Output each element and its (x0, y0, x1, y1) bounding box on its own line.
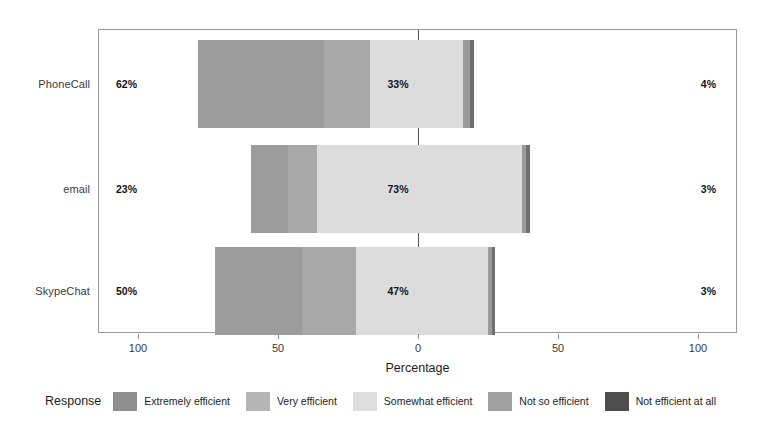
legend-item-label: Not efficient at all (636, 395, 716, 407)
x-tick-label: 50 (552, 342, 564, 354)
legend-item[interactable]: Not so efficient (488, 392, 588, 411)
x-tick (558, 334, 559, 339)
legend-item[interactable]: Somewhat efficient (353, 392, 473, 411)
x-tick-label: 0 (415, 342, 421, 354)
right-percent-label: 3% (680, 285, 716, 297)
bar-segment-very-efficient (302, 247, 357, 335)
legend-item[interactable]: Very efficient (246, 392, 337, 411)
left-percent-label: 62% (116, 78, 137, 90)
right-percent-label: 3% (680, 183, 716, 195)
center-percent-label: 33% (387, 78, 408, 90)
legend-title: Response (45, 394, 101, 408)
zero-reference-line-0 (418, 30, 419, 40)
bar-row (98, 40, 737, 128)
x-tick (418, 334, 419, 339)
center-percent-label: 73% (387, 183, 408, 195)
chart-legend: Response Extremely efficientVery efficie… (0, 388, 777, 414)
bar-segment-somewhat-efficient (356, 247, 488, 335)
x-tick (138, 334, 139, 339)
bar-segment-somewhat-efficient (317, 145, 521, 233)
left-percent-label: 23% (116, 183, 137, 195)
bar-segment-extremely-efficient (215, 247, 302, 335)
bar-segment-extremely-efficient (251, 145, 287, 233)
legend-item-label: Not so efficient (519, 395, 588, 407)
x-tick-label: 100 (689, 342, 707, 354)
legend-swatch-icon (246, 392, 270, 411)
legend-items: Extremely efficientVery efficientSomewha… (113, 392, 732, 411)
zero-reference-line-2 (418, 233, 419, 247)
bar-segment-not-efficient-at-all (492, 247, 495, 335)
center-percent-label: 47% (387, 285, 408, 297)
legend-item-label: Very efficient (277, 395, 337, 407)
bar-segment-extremely-efficient (198, 40, 324, 128)
legend-swatch-icon (488, 392, 512, 411)
bar-segment-somewhat-efficient (370, 40, 462, 128)
legend-swatch-icon (113, 392, 137, 411)
bar-row (98, 247, 737, 335)
left-percent-label: 50% (116, 285, 137, 297)
bar-segment-not-efficient-at-all (526, 145, 530, 233)
legend-swatch-icon (605, 392, 629, 411)
category-label-phonecall: PhoneCall (8, 78, 90, 90)
category-label-email: email (8, 183, 90, 195)
zero-reference-line-1 (418, 128, 419, 145)
bar-segment-very-efficient (324, 40, 370, 128)
bar-segment-not-so-efficient (463, 40, 470, 128)
chart-canvas: PhoneCall62%33%4%email23%73%3%SkypeChat5… (0, 0, 777, 446)
bar-segment-not-efficient-at-all (470, 40, 474, 128)
legend-swatch-icon (353, 392, 377, 411)
x-tick-label: 50 (272, 342, 284, 354)
legend-item[interactable]: Extremely efficient (113, 392, 230, 411)
x-axis-title: Percentage (386, 361, 450, 375)
legend-item-label: Extremely efficient (144, 395, 230, 407)
x-tick-label: 100 (129, 342, 147, 354)
bar-segment-very-efficient (288, 145, 317, 233)
right-percent-label: 4% (680, 78, 716, 90)
bar-row (98, 145, 737, 233)
x-tick (698, 334, 699, 339)
legend-item[interactable]: Not efficient at all (605, 392, 716, 411)
legend-item-label: Somewhat efficient (384, 395, 473, 407)
category-label-skypechat: SkypeChat (8, 285, 90, 297)
x-tick (278, 334, 279, 339)
